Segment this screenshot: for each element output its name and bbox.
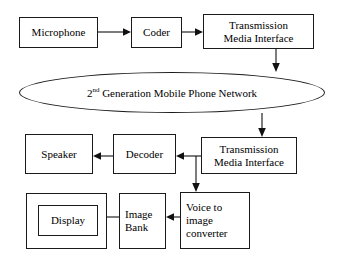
node-mobile-phone-network[interactable]: 2nd Generation Mobile Phone Network	[19, 72, 325, 113]
node-coder-label: Coder	[143, 26, 170, 39]
edge-tmi-rx-to-decoder	[176, 152, 201, 160]
node-image-bank[interactable]: Image Bank	[119, 193, 166, 249]
node-network-label: 2nd Generation Mobile Phone Network	[87, 86, 257, 99]
node-speaker[interactable]: Speaker	[25, 134, 93, 174]
node-voice-converter-label-line1: Voice to	[186, 201, 222, 214]
edge-network-to-tmi-rx	[258, 113, 266, 137]
node-image-bank-label-line2: Bank	[125, 221, 148, 234]
node-voice-converter-label-line2: image	[186, 214, 213, 227]
node-display-label: Display	[51, 214, 85, 227]
node-decoder[interactable]: Decoder	[113, 134, 176, 174]
node-tmi-tx-label-line1: Transmission	[229, 19, 288, 32]
edge-decoder-to-speaker	[93, 152, 113, 160]
edge-voice-converter-to-image-bank	[166, 213, 180, 221]
diagram-canvas: Microphone Coder Transmission Media Inte…	[0, 0, 346, 258]
edge-tmi-rx-to-voice-converter	[192, 156, 200, 192]
node-decoder-label: Decoder	[126, 148, 163, 161]
node-speaker-label: Speaker	[41, 148, 76, 161]
node-voice-to-image-converter[interactable]: Voice to image converter	[180, 192, 250, 249]
node-voice-converter-label-line3: converter	[186, 227, 228, 240]
node-transmission-media-interface-tx[interactable]: Transmission Media Interface	[203, 14, 314, 49]
node-tmi-tx-label-line2: Media Interface	[224, 32, 294, 45]
node-transmission-media-interface-rx[interactable]: Transmission Media Interface	[201, 137, 297, 174]
node-coder[interactable]: Coder	[131, 17, 182, 48]
node-network-suffix: Generation Mobile Phone Network	[99, 87, 257, 99]
node-microphone[interactable]: Microphone	[19, 17, 98, 48]
node-image-bank-label-line1: Image	[125, 208, 152, 221]
edge-microphone-to-coder	[98, 28, 131, 36]
node-tmi-rx-label-line2: Media Interface	[214, 156, 284, 169]
edge-coder-to-tmi-tx	[182, 28, 203, 36]
node-microphone-label: Microphone	[32, 26, 86, 39]
edge-tmi-tx-to-network	[272, 49, 280, 72]
node-display[interactable]: Display	[38, 205, 98, 236]
node-tmi-rx-label-line1: Transmission	[220, 143, 279, 156]
